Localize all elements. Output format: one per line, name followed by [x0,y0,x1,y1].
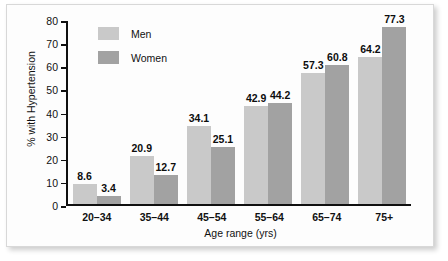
chart-figure: % with Hypertension 01020304050607080 8.… [6,4,434,247]
bar-rect [301,73,325,204]
chart-legend: Men Women [98,27,167,75]
x-axis-tick-label: 65–74 [298,211,356,223]
legend-swatch-men-icon [98,27,119,40]
bar-rect [325,65,349,204]
bar-men[interactable]: 64.2 [358,21,382,204]
legend-label-women: Women [131,52,167,64]
bar-value-label: 20.9 [132,142,152,154]
legend-item-women: Women [98,51,167,64]
bar-women[interactable]: 60.8 [325,21,349,204]
y-axis-title: % with Hypertension [25,24,37,174]
y-axis-tick [61,183,66,185]
bar-value-label: 57.3 [303,59,323,71]
bar-group: 42.944.2 [240,21,297,204]
x-axis-title: Age range (yrs) [68,227,413,239]
bar-rect [130,156,154,204]
bar-rect [187,126,211,204]
bar-men[interactable]: 34.1 [187,21,211,204]
bar-value-label: 60.8 [327,51,347,63]
y-axis-tick-label: 30 [46,131,58,143]
bar-rect [244,106,268,204]
bar-group: 64.277.3 [354,21,411,204]
y-axis-tick-label: 50 [46,84,58,96]
bar-value-label: 42.9 [246,92,266,104]
x-axis-tick-label: 45–54 [183,211,241,223]
y-axis-tick-label: 0 [52,200,58,212]
bar-rect [73,184,97,204]
y-axis-tick-label: 20 [46,154,58,166]
y-axis-tick [61,67,66,69]
bar-value-label: 64.2 [360,43,380,55]
bar-men[interactable]: 42.9 [244,21,268,204]
legend-item-men: Men [98,27,167,40]
x-axis-tick-label: 55–64 [241,211,299,223]
x-axis-tick-label: 35–44 [126,211,184,223]
y-axis-tick [61,44,66,46]
bar-group: 57.360.8 [297,21,354,204]
y-axis-tick [61,90,66,92]
bar-rect [268,103,292,204]
y-axis-tick [61,137,66,139]
bar-group: 34.125.1 [182,21,239,204]
bar-rect [97,196,121,204]
bar-rect [211,147,235,204]
bar-women[interactable]: 25.1 [211,21,235,204]
x-axis-tick-label: 20–34 [68,211,126,223]
bar-men[interactable]: 8.6 [73,21,97,204]
bar-value-label: 3.4 [101,182,116,194]
y-axis-tick-label: 70 [46,38,58,50]
bar-value-label: 77.3 [384,13,404,25]
bar-rect [154,175,178,204]
y-axis-tick [61,21,66,23]
bar-value-label: 8.6 [77,170,92,182]
y-axis-tick-label: 10 [46,177,58,189]
bar-value-label: 34.1 [189,112,209,124]
bar-women[interactable]: 44.2 [268,21,292,204]
y-axis-tick [61,160,66,162]
legend-swatch-women-icon [98,51,119,64]
x-axis-line [66,204,411,206]
bar-value-label: 25.1 [213,133,233,145]
bar-women[interactable]: 77.3 [382,21,406,204]
bar-rect [382,27,406,204]
legend-label-men: Men [131,28,151,40]
bar-value-label: 12.7 [156,161,176,173]
x-axis-tick-label: 75+ [356,211,414,223]
y-axis-tick [61,206,66,208]
y-axis-tick [61,114,66,116]
y-axis-tick-label: 60 [46,61,58,73]
bar-rect [358,57,382,204]
x-axis-tick-labels: 20–3435–4445–5455–6465–7475+ [68,211,413,223]
y-axis-tick-label: 80 [46,15,58,27]
y-axis-tick-label: 40 [46,108,58,120]
bar-value-label: 44.2 [270,89,290,101]
bar-men[interactable]: 57.3 [301,21,325,204]
